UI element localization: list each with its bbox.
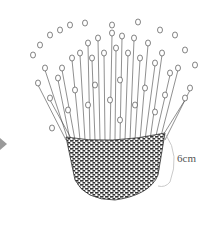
measurement-label: 6cm: [177, 152, 196, 164]
plant-buds: [31, 19, 198, 131]
woven-basket: [66, 133, 165, 200]
basket-plant-illustration: [0, 0, 219, 228]
plant-stems: [38, 35, 190, 140]
play-arrow-icon: [0, 138, 7, 150]
